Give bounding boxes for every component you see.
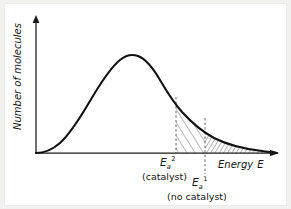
x-axis-label-symbol: E (257, 159, 264, 170)
shaded-area-catalyst (176, 40, 205, 153)
x-axis-label-word: Energy (218, 159, 254, 170)
figure-root: Number of molecules EnergyE Ea2 (catalys… (0, 0, 291, 209)
maxwell-boltzmann-curve (36, 55, 277, 153)
y-axis-arrow-icon (33, 15, 40, 23)
label-ea2-caption: (catalyst) (142, 171, 187, 182)
label-ea2-subscript: a (167, 163, 171, 171)
label-ea1-symbol: Ea1 (192, 175, 207, 192)
x-axis-label: EnergyE (218, 159, 264, 170)
label-ea1-caption: (no catalyst) (167, 191, 227, 202)
shaded-area-no-catalyst (205, 40, 279, 153)
label-ea1-superscript: 1 (203, 175, 207, 183)
y-axis-label: Number of molecules (12, 23, 23, 130)
label-ea2-superscript: 2 (171, 155, 175, 163)
label-ea1-subscript: a (199, 183, 203, 191)
label-ea2-symbol: Ea2 (160, 155, 175, 172)
distribution-chart: Number of molecules EnergyE Ea2 (catalys… (0, 0, 291, 209)
